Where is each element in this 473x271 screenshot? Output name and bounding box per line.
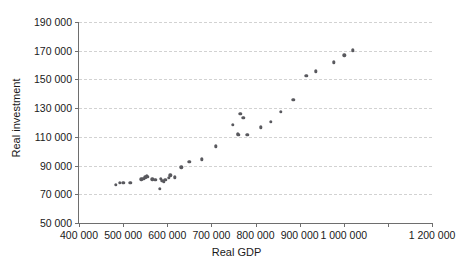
y-gridline xyxy=(79,108,432,109)
data-point xyxy=(214,145,217,148)
data-point xyxy=(188,160,191,163)
y-gridline xyxy=(79,137,432,138)
y-tick-label: 190 000 xyxy=(34,17,72,28)
y-tick-label: 110 000 xyxy=(35,132,72,143)
y-gridline xyxy=(79,166,432,167)
data-point xyxy=(279,110,282,113)
y-tick-label: 50 000 xyxy=(40,218,72,229)
x-tick-label: 1 200 000 xyxy=(409,230,456,241)
y-tick-mark xyxy=(75,22,79,23)
x-tick-mark xyxy=(256,223,257,227)
x-tick-mark xyxy=(300,223,301,227)
x-tick-label: 500 000 xyxy=(104,230,142,241)
y-tick-mark xyxy=(75,51,79,52)
data-point xyxy=(305,74,308,77)
plot-inner xyxy=(79,22,432,223)
data-point xyxy=(259,126,262,129)
scatter-chart-figure: Real investment 50 00070 00090 000110 00… xyxy=(0,0,473,271)
x-tick-mark xyxy=(79,223,80,227)
y-gridline xyxy=(79,51,432,52)
data-point xyxy=(200,158,203,161)
data-point xyxy=(180,166,183,169)
data-point xyxy=(146,175,149,178)
data-point xyxy=(121,181,124,184)
x-tick-mark xyxy=(211,223,212,227)
data-point xyxy=(239,112,242,115)
y-tick-label: 150 000 xyxy=(34,74,72,85)
data-point xyxy=(173,176,176,179)
data-point xyxy=(154,178,157,181)
plot-area: 50 00070 00090 000110 000130 000150 0001… xyxy=(78,22,432,224)
data-point xyxy=(169,174,172,177)
y-axis-title: Real investment xyxy=(10,58,22,178)
x-tick-mark xyxy=(388,223,389,227)
data-point xyxy=(342,53,345,56)
data-point xyxy=(164,178,167,181)
y-gridline xyxy=(79,194,432,195)
x-tick-label: 600 000 xyxy=(148,230,186,241)
x-tick-mark xyxy=(432,223,433,227)
data-point xyxy=(292,98,295,101)
y-tick-label: 90 000 xyxy=(40,160,72,171)
x-tick-label: 1 000 000 xyxy=(320,230,367,241)
y-gridline xyxy=(79,22,432,23)
y-tick-mark xyxy=(75,79,79,80)
y-tick-mark xyxy=(75,166,79,167)
data-point xyxy=(158,187,161,190)
data-point xyxy=(332,61,335,64)
data-point xyxy=(314,70,317,73)
y-tick-mark xyxy=(75,108,79,109)
y-gridline xyxy=(79,79,432,80)
y-tick-label: 170 000 xyxy=(34,45,72,56)
x-tick-label: 900 000 xyxy=(281,230,319,241)
y-tick-mark xyxy=(75,137,79,138)
x-tick-label: 400 000 xyxy=(60,230,98,241)
x-tick-mark xyxy=(167,223,168,227)
y-tick-mark xyxy=(75,194,79,195)
data-point xyxy=(269,120,272,123)
x-tick-label: 700 000 xyxy=(192,230,230,241)
data-point xyxy=(231,123,234,126)
x-tick-label: 800 000 xyxy=(237,230,275,241)
y-tick-label: 130 000 xyxy=(34,103,72,114)
y-tick-label: 70 000 xyxy=(40,189,72,200)
x-tick-mark xyxy=(344,223,345,227)
data-point xyxy=(167,176,170,179)
data-point xyxy=(128,181,131,184)
data-point xyxy=(241,116,244,119)
x-axis-title: Real GDP xyxy=(0,246,473,258)
x-tick-mark xyxy=(123,223,124,227)
